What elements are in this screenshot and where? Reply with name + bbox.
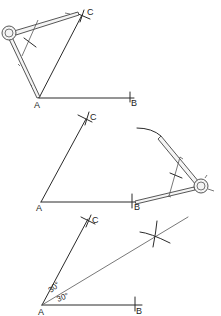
- label-c: C: [92, 215, 99, 225]
- label-a: A: [36, 203, 42, 213]
- label-b: B: [136, 306, 142, 316]
- intersection-arc-2: [153, 221, 157, 247]
- swing-arc: [137, 128, 161, 136]
- panel-3: 30° 30° A B C: [38, 215, 188, 316]
- compass-icon: [135, 136, 214, 204]
- compass-icon: [2, 12, 79, 98]
- label-b: B: [134, 202, 140, 212]
- label-c: C: [90, 112, 97, 122]
- label-a: A: [34, 100, 40, 110]
- label-b: B: [131, 98, 137, 108]
- label-a: A: [38, 307, 44, 316]
- angle-label-lower: 30°: [55, 291, 70, 304]
- diagram-canvas: A B C A B C: [0, 0, 221, 316]
- line-ac: [39, 15, 82, 98]
- panel-2: A B C: [36, 112, 214, 213]
- label-c: C: [87, 7, 94, 17]
- line-ac: [41, 119, 86, 202]
- panel-1: A B C: [2, 7, 137, 110]
